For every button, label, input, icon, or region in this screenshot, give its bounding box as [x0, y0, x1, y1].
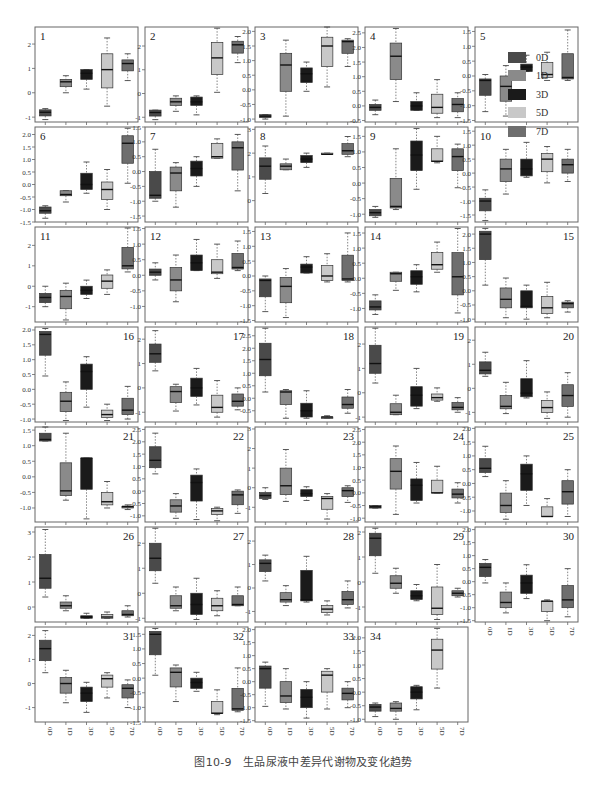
y-tick-label: 2.5 [352, 29, 361, 37]
y-tick-label: 2 [138, 540, 142, 548]
panel-21: -1.0-0.50.00.51.01.5210D1D3D5D7D [20, 427, 138, 536]
legend-label-1d: 1D [536, 70, 548, 81]
y-tick-label: 0.5 [22, 458, 31, 466]
box-1D [500, 592, 512, 608]
x-tick-label: 7D [238, 727, 246, 736]
y-tick-label: -1.5 [240, 317, 252, 325]
y-tick-label: 0.0 [352, 102, 361, 110]
panel-number: 1 [40, 30, 46, 42]
box-1D [60, 392, 72, 411]
y-tick-label: 0.5 [132, 475, 141, 483]
box-0D [260, 158, 272, 179]
box-5D [541, 400, 553, 412]
panel-number: 28 [343, 530, 355, 542]
y-tick-label: 0.0 [242, 86, 251, 94]
y-tick-label: 1.0 [132, 645, 141, 653]
panel-11: -1012110D1D3D5D7D [25, 227, 138, 336]
y-tick-label: 1.0 [462, 259, 471, 267]
y-tick-label: 1.5 [352, 59, 361, 67]
y-tick-label: -1.0 [350, 211, 362, 219]
y-tick-label: -0.5 [460, 184, 472, 192]
y-tick-label: 0.0 [242, 272, 251, 280]
panel-number: 16 [123, 330, 135, 342]
box-1D [500, 493, 512, 512]
y-tick-label: 0 [28, 283, 32, 291]
box-3D [191, 678, 203, 688]
box-1D [60, 79, 72, 86]
box-0D [260, 279, 272, 297]
panel-26: 0123260D1D3D5D7D [28, 527, 139, 636]
box-5D [321, 266, 333, 281]
panel-33: -1.5-1.0-0.50.00.51.01.52.0330D1D3D5D7D [240, 626, 358, 735]
box-3D [521, 464, 533, 490]
x-tick-label: 0D [266, 727, 274, 736]
panel-15: -1.0-0.50.00.51.01.52.0150D1D3D5D7D [460, 227, 578, 336]
y-tick-label: 2.0 [22, 131, 31, 139]
y-tick-label: 0.0 [242, 395, 251, 403]
y-tick-label: 1.5 [352, 133, 361, 141]
y-tick-label: -0.5 [350, 195, 362, 203]
box-1D [60, 290, 72, 308]
x-tick-label: 3D [417, 727, 425, 736]
y-tick-label: 0.0 [22, 181, 31, 189]
box-5D [101, 492, 113, 504]
y-tick-label: 1 [248, 173, 252, 181]
y-tick-label: 2.0 [352, 439, 361, 447]
y-tick-label: 0.5 [462, 565, 471, 573]
panel-number: 26 [123, 530, 135, 542]
panel-number: 27 [233, 530, 245, 542]
box-7D [562, 586, 574, 608]
y-tick-label: -0.5 [130, 689, 142, 697]
y-tick-label: 2 [28, 242, 32, 250]
y-tick-label: 0.5 [352, 164, 361, 172]
panel-number: 7 [150, 130, 156, 142]
y-tick-label: 1.5 [462, 28, 471, 36]
y-tick-label: 2.0 [242, 626, 251, 634]
y-tick-label: 1 [138, 565, 142, 573]
box-0D [480, 362, 492, 374]
y-tick-label: 2.0 [242, 28, 251, 36]
box-1D [170, 267, 182, 290]
y-tick-label: 1 [358, 554, 362, 562]
y-tick-label: -1 [355, 604, 361, 612]
panel-1: -101210D1D3D5D7D [25, 27, 138, 136]
y-tick-label: -1.0 [350, 305, 362, 313]
y-tick-label: 2 [138, 43, 142, 51]
legend: 0D 1D 3D 5D 7D [508, 48, 548, 141]
box-1D [280, 593, 292, 602]
y-tick-label: 0.0 [462, 170, 471, 178]
y-tick-label: 1.0 [352, 662, 361, 670]
box-5D [541, 601, 553, 611]
panel-4: -0.50.00.51.01.52.02.540D1D3D5D7D [350, 27, 468, 136]
panel-30: -1.5-1.0-0.50.00.51.01.52.0300D1D3D5D7D [460, 526, 578, 635]
y-tick-label: 0.0 [242, 678, 251, 686]
y-tick-label: -1.0 [130, 704, 142, 712]
y-tick-label: 0 [28, 89, 32, 97]
box-5D [431, 94, 443, 113]
x-tick-label: 7D [128, 727, 136, 736]
y-tick-label: 1.0 [462, 452, 471, 460]
box-0D [260, 666, 272, 688]
y-tick-label: 1 [28, 579, 32, 587]
y-tick-label: 0.5 [462, 273, 471, 281]
y-tick-label: 2 [28, 554, 32, 562]
panel-number: 9 [370, 130, 376, 142]
y-tick-label: 2.5 [242, 332, 251, 340]
y-tick-label: 1.5 [462, 245, 471, 253]
x-tick-label: 1D [286, 727, 294, 736]
panel-14: -1.0-0.50.00.51.01.5140D1D3D5D7D [350, 227, 468, 336]
box-0D [480, 459, 492, 473]
box-0D [480, 231, 492, 259]
box-7D [342, 397, 354, 408]
y-tick-label: 0.0 [462, 287, 471, 295]
box-3D [521, 575, 533, 593]
x-tick-label: 7D [568, 627, 576, 636]
y-tick-label: 1 [138, 66, 142, 74]
y-tick-label: 1.5 [352, 648, 361, 656]
box-5D [541, 154, 553, 172]
y-tick-label: 1.5 [462, 439, 471, 447]
y-tick-label: 1.5 [132, 225, 141, 233]
y-tick-label: 2.0 [352, 634, 361, 642]
panel-10: -1.5-1.0-0.50.00.51.01.5100D1D3D5D7D [460, 127, 578, 236]
y-tick-label: 0 [138, 90, 142, 98]
